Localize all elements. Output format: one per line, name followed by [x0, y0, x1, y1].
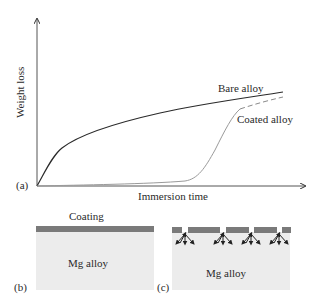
x-axis-label: Immersion time	[138, 191, 208, 202]
bare-alloy-curve	[37, 92, 283, 186]
coated-alloy-label: Coated alloy	[237, 114, 293, 125]
panel-b-label: (b)	[14, 282, 27, 293]
coated-alloy-curve	[37, 109, 240, 186]
figure-canvas	[0, 0, 321, 303]
mg-alloy-label-b: Mg alloy	[68, 258, 108, 269]
panel-c-label: (c)	[157, 282, 169, 293]
substrate-c	[172, 232, 290, 290]
bare-alloy-label: Bare alloy	[218, 83, 264, 94]
damaged-coating-c	[172, 227, 291, 233]
mg-alloy-label-c: Mg alloy	[206, 268, 246, 279]
coating-label: Coating	[69, 211, 104, 222]
coating-layer-b	[36, 226, 154, 232]
panel-a-label: (a)	[16, 180, 28, 191]
y-axis-label: Weight loss	[14, 67, 26, 118]
coated-alloy-dashed	[240, 97, 283, 109]
